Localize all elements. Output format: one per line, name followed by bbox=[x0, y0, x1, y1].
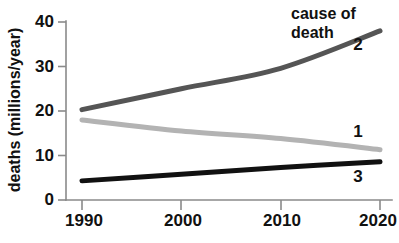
legend-title-line1: cause of bbox=[291, 5, 357, 22]
y-tick-label-10: 10 bbox=[35, 146, 54, 165]
legend-title-line2: death bbox=[291, 24, 334, 41]
series-line-3 bbox=[82, 162, 380, 181]
x-tick-label-2000: 2000 bbox=[164, 211, 202, 230]
x-tick-label-2010: 2010 bbox=[263, 211, 301, 230]
y-tick-label-0: 0 bbox=[45, 190, 54, 209]
y-tick-label-20: 20 bbox=[35, 101, 54, 120]
series-line-1 bbox=[82, 120, 380, 150]
chart-screenshot: 40 30 20 10 0 1990 2000 2010 2020 deaths… bbox=[0, 0, 399, 243]
series-line-2 bbox=[82, 31, 380, 110]
line-chart: 40 30 20 10 0 1990 2000 2010 2020 deaths… bbox=[0, 0, 399, 243]
y-axis-title: deaths (millions/year) bbox=[6, 28, 23, 193]
y-tick-label-30: 30 bbox=[35, 57, 54, 76]
series-label-1: 1 bbox=[353, 122, 362, 141]
series-label-2: 2 bbox=[353, 35, 362, 54]
y-tick-label-40: 40 bbox=[35, 12, 54, 31]
x-tick-label-2020: 2020 bbox=[359, 211, 397, 230]
x-tick-label-1990: 1990 bbox=[65, 211, 103, 230]
series-label-3: 3 bbox=[353, 167, 362, 186]
